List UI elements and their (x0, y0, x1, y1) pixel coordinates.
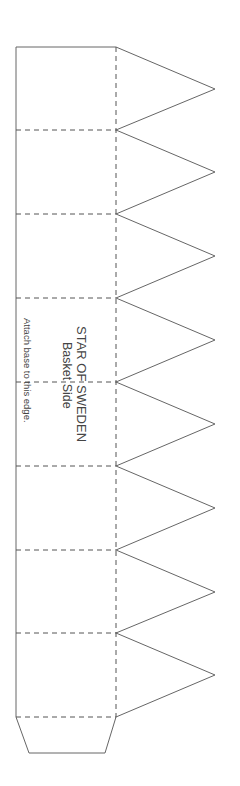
basket-side-template (0, 0, 240, 786)
triangle-tabs (116, 47, 215, 717)
template-subtitle: Basket Side (60, 342, 74, 409)
template-title: STAR OF SWEDEN (74, 326, 89, 442)
attach-instruction: Attach base to this edge. (22, 318, 33, 423)
